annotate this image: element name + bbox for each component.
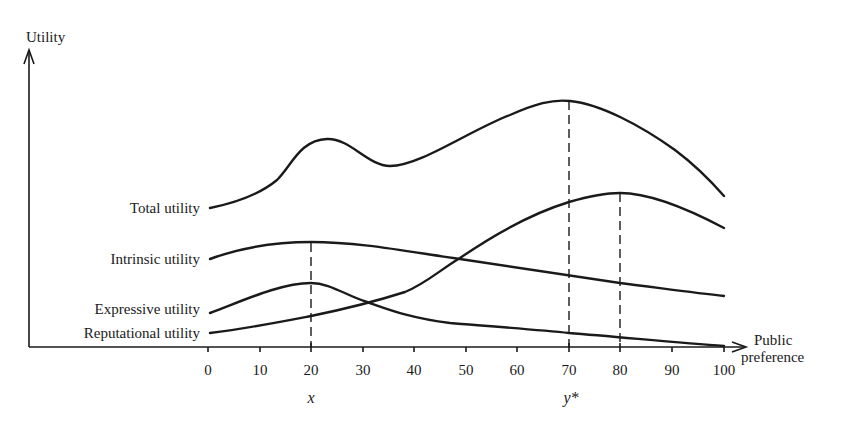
tick-label-90: 90	[665, 362, 680, 378]
tick-label-100: 100	[713, 362, 736, 378]
expressive-utility-label: Expressive utility	[95, 301, 201, 317]
tick-label-0: 0	[204, 362, 212, 378]
utility-diagram: 0 10 20 30 40 50 60 70 80 90 100 Utility…	[0, 0, 862, 433]
y-axis-label: Utility	[26, 29, 66, 45]
tick-label-40: 40	[407, 362, 422, 378]
tick-label-70: 70	[562, 362, 577, 378]
tick-label-30: 30	[356, 362, 371, 378]
x-axis-label-line2: preference	[741, 349, 805, 365]
total-utility-curve	[210, 101, 724, 208]
intrinsic-utility-label: Intrinsic utility	[110, 251, 200, 267]
tick-label-60: 60	[510, 362, 525, 378]
reputational-utility-curve	[210, 193, 724, 333]
expressive-utility-curve	[210, 283, 724, 346]
intrinsic-utility-curve	[210, 242, 724, 296]
reputational-utility-label: Reputational utility	[84, 325, 201, 341]
tick-label-80: 80	[613, 362, 628, 378]
tick-label-10: 10	[253, 362, 268, 378]
total-utility-label: Total utility	[130, 200, 201, 216]
x-axis-label-line1: Public	[754, 332, 793, 348]
tick-label-50: 50	[459, 362, 474, 378]
tick-label-20: 20	[304, 362, 319, 378]
marker-x-label: x	[306, 389, 314, 406]
marker-ystar-label: y*	[561, 389, 578, 407]
